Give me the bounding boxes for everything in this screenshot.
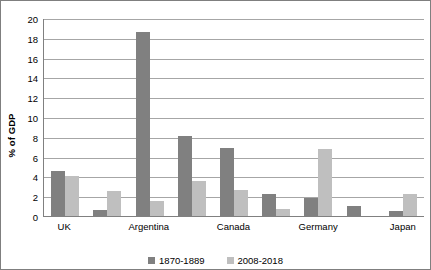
y-axis-tick-label: 12 [27, 93, 38, 104]
bar-group [171, 19, 213, 216]
bar [136, 32, 150, 216]
bar [150, 201, 164, 216]
legend-swatch-icon [227, 257, 234, 264]
legend-swatch-icon [148, 257, 155, 264]
y-axis-tick-label: 6 [33, 152, 38, 163]
bars-layer [44, 19, 424, 216]
y-axis-tick-label: 2 [33, 192, 38, 203]
y-axis-tick-label: 16 [27, 53, 38, 64]
bar [178, 136, 192, 216]
bar [234, 190, 248, 216]
bar [93, 210, 107, 216]
bar [318, 149, 332, 216]
bar-group [382, 19, 424, 216]
bar-group [86, 19, 128, 216]
bar-group [340, 19, 382, 216]
bar [403, 194, 417, 216]
bar [220, 148, 234, 216]
bar [192, 181, 206, 216]
bar [304, 198, 318, 216]
x-axis-tick-labels: UKArgentinaCanadaGermanyJapan [43, 221, 424, 237]
chart-legend: 1870-18892008-2018 [1, 253, 430, 267]
x-axis-tick-label-empty [339, 221, 381, 237]
bar-group [255, 19, 297, 216]
legend-label: 1870-1889 [159, 255, 204, 266]
bar-group [213, 19, 255, 216]
x-axis-tick-label-empty [170, 221, 212, 237]
bar [65, 176, 79, 216]
x-axis-tick-label: Canada [212, 221, 254, 237]
y-axis-tick-label: 8 [33, 132, 38, 143]
y-axis-tick-label: 20 [27, 14, 38, 25]
y-axis-tick-label: 14 [27, 73, 38, 84]
bar [276, 209, 290, 216]
bar [347, 206, 361, 216]
legend-label: 2008-2018 [238, 255, 283, 266]
y-axis-title-label: % of GDP [6, 113, 17, 157]
x-axis-tick-label: UK [43, 221, 85, 237]
y-axis-title: % of GDP [3, 1, 19, 269]
x-axis-tick-label-empty [85, 221, 127, 237]
y-axis-tick-labels: 20181614121086420 [19, 19, 41, 217]
x-axis-tick-label: Germany [297, 221, 339, 237]
bar [262, 194, 276, 216]
y-axis-tick-label: 0 [33, 212, 38, 223]
y-axis-tick-label: 10 [27, 113, 38, 124]
plot-wrapper: 20181614121086420 UKArgentinaCanadaGerma… [19, 9, 424, 261]
x-axis-tick-label: Japan [382, 221, 424, 237]
x-axis-tick-label-empty [255, 221, 297, 237]
y-axis-tick-label: 18 [27, 33, 38, 44]
bar-group [44, 19, 86, 216]
plot-area [43, 19, 424, 217]
bar [107, 191, 121, 216]
y-axis-tick-label: 4 [33, 172, 38, 183]
bar-group [297, 19, 339, 216]
legend-item[interactable]: 2008-2018 [227, 255, 283, 266]
bar [389, 211, 403, 216]
bar-group [128, 19, 170, 216]
x-axis-tick-label: Argentina [128, 221, 170, 237]
bar [51, 171, 65, 216]
bar-chart: % of GDP 20181614121086420 UKArgentinaCa… [0, 0, 431, 270]
legend-item[interactable]: 1870-1889 [148, 255, 204, 266]
